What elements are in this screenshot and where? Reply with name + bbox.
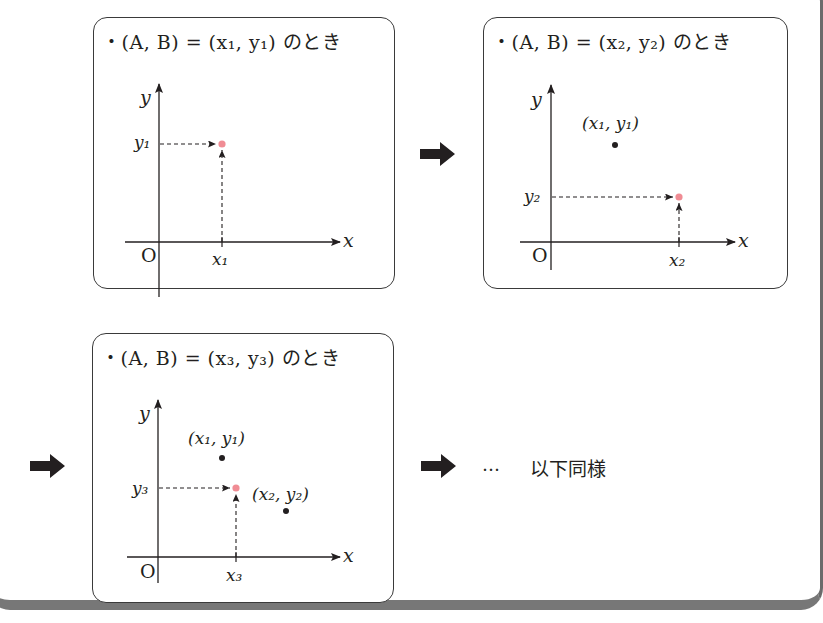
- arrow-right-icon: [421, 454, 457, 478]
- origin-label: O: [140, 560, 156, 582]
- ellipsis: …: [482, 454, 500, 475]
- previous-point-1: [219, 455, 225, 461]
- x-axis-label: x: [343, 544, 354, 566]
- previous-point-label: (x₂, y₂): [252, 484, 309, 504]
- current-point: [232, 484, 239, 491]
- previous-point-label: (x₁, y₁): [188, 428, 245, 448]
- y-axis-label: y: [139, 402, 150, 424]
- y-tick-label: y₃: [132, 478, 148, 498]
- x-tick-label: x₃: [226, 565, 242, 585]
- continuation-text: 以下同様: [530, 454, 606, 481]
- previous-point-2: [283, 508, 289, 514]
